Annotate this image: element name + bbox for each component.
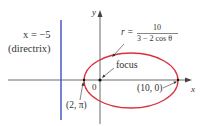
y-axis-arrow-icon (98, 10, 103, 17)
point-right-label: (10, 0) (137, 84, 162, 94)
directrix-equation: x = −5 (23, 30, 51, 41)
equation-lhs: r = (121, 28, 133, 38)
ellipse-diagram (0, 0, 206, 126)
point-left-label: (2, π) (66, 101, 87, 111)
origin-label: 0 (92, 83, 97, 92)
vertex-right-point (177, 79, 179, 81)
point-right-leader (163, 82, 176, 88)
directrix-equation-text: x = −5 (23, 29, 51, 40)
vertex-left-point (83, 79, 85, 81)
equation-denominator: 3 − 2 cos θ (137, 35, 172, 43)
focus-point (98, 78, 101, 81)
point-right-leader-arrow-icon (174, 82, 178, 85)
focus-label: focus (116, 60, 138, 70)
equation-numerator: 10 (153, 24, 161, 32)
directrix-label: (directrix) (8, 44, 51, 55)
y-axis-label: y (92, 8, 96, 17)
x-axis-arrow-icon (185, 78, 192, 83)
x-axis-label: x (191, 85, 195, 94)
